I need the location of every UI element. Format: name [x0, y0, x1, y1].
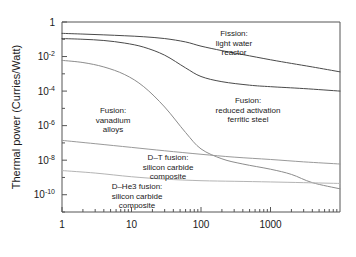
x-tick-label: 10 [126, 219, 138, 230]
annotation-dt-fusion-sic: D–T fusion:silicon carbidecomposite [143, 153, 194, 181]
annotation-dhe3-fusion-sic: D–He3 fusion:silicon carbidecomposite [112, 182, 163, 210]
y-tick-label: 1 [49, 17, 55, 28]
x-tick-label: 1000 [259, 219, 282, 230]
x-tick-label: 100 [193, 219, 210, 230]
y-axis-title: Thermal power (Curries/Watt) [10, 45, 22, 189]
chart-background [0, 0, 356, 257]
chart-svg: 110-210-410-610-810-10 1101001000 Therma… [0, 0, 356, 257]
thermal-power-decay-chart: 110-210-410-610-810-10 1101001000 Therma… [0, 0, 356, 257]
x-tick-label: 1 [59, 219, 65, 230]
